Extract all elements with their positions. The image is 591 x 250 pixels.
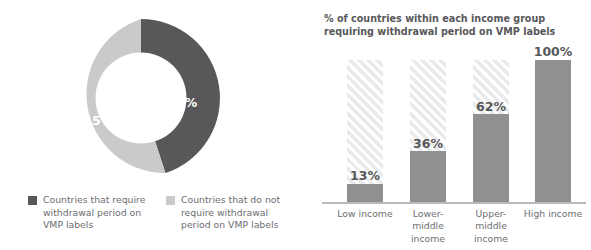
- figure-root: 45% 55% Countries that require withdrawa…: [0, 0, 591, 250]
- bar-chart-panel: % of countries within each income group …: [300, 0, 591, 250]
- x-axis-line: [322, 202, 586, 204]
- donut-chart-panel: 45% 55% Countries that require withdrawa…: [0, 0, 300, 250]
- legend-label-not-require: Countries that do not require withdrawal…: [181, 194, 286, 232]
- legend-item-not-require[interactable]: Countries that do not require withdrawal…: [166, 194, 286, 232]
- bar-category-high-income: High income: [522, 208, 584, 220]
- donut-chart: 45% 55%: [61, 18, 221, 178]
- bar-chart-title: % of countries within each income group …: [324, 13, 574, 38]
- bar-value-upper-middle-income: 62%: [469, 99, 513, 114]
- bar-value-high-income: 100%: [529, 44, 577, 59]
- bar-category-lower-middle-income: Lower-middle income: [397, 208, 459, 245]
- legend-item-require[interactable]: Countries that require withdrawal period…: [28, 194, 148, 232]
- donut-value-require: 45%: [167, 95, 198, 110]
- bar-category-upper-middle-income: Upper-middle income: [460, 208, 522, 245]
- bar-fill-high-income[interactable]: [535, 60, 571, 202]
- donut-legend: Countries that require withdrawal period…: [28, 194, 290, 232]
- bar-fill-low-income[interactable]: [347, 184, 383, 203]
- legend-swatch-light-icon: [166, 196, 175, 205]
- bar-value-lower-middle-income: 36%: [406, 136, 450, 151]
- bar-value-low-income: 13%: [343, 168, 387, 183]
- bar-plot-area: 13% 36% 62% 100% Low income Lower-midd: [318, 58, 591, 204]
- bar-category-low-income: Low income: [334, 208, 396, 220]
- bar-fill-upper-middle-income[interactable]: [473, 114, 509, 202]
- legend-swatch-dark-icon: [28, 196, 37, 205]
- donut-value-not-require: 55%: [83, 113, 114, 128]
- legend-label-require: Countries that require withdrawal period…: [43, 194, 148, 232]
- bar-fill-lower-middle-income[interactable]: [410, 151, 446, 202]
